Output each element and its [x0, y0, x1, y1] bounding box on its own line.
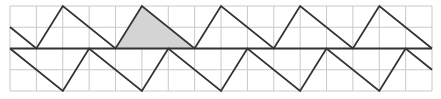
zigzag-grid-diagram: [0, 0, 441, 99]
